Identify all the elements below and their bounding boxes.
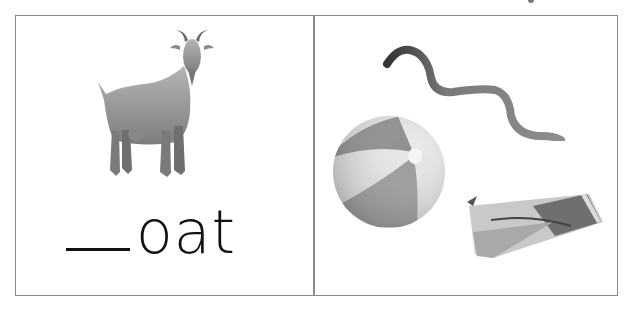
cropped-mark (528, 0, 534, 3)
gum-picture[interactable] (463, 192, 611, 272)
word-suffix: oat (136, 197, 236, 267)
choices-panel (315, 16, 617, 295)
ball-picture[interactable] (331, 114, 447, 230)
target-word-panel: oat (16, 16, 313, 295)
letter-blank[interactable] (66, 248, 130, 251)
fill-in-word: oat (66, 202, 236, 262)
goat-picture (92, 26, 222, 186)
